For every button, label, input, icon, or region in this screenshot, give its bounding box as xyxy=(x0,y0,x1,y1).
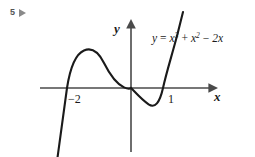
x-tick-label-1: 1 xyxy=(168,92,174,106)
x-axis-label: x xyxy=(213,89,221,104)
equation-term3: 2x xyxy=(212,32,224,44)
x-tick-label-neg2: −2 xyxy=(68,92,81,106)
equation-annotation: y=x3+x2−2x xyxy=(151,31,224,45)
equation-minus: − xyxy=(203,32,210,44)
y-axis-label: y xyxy=(112,21,120,36)
equation-term1-exponent: 3 xyxy=(174,31,179,40)
equation-plus: + xyxy=(181,32,188,44)
equation-term2-exponent: 2 xyxy=(196,31,200,40)
equation-equals: = xyxy=(160,32,167,44)
graph-canvas: y x −2 1 y=x3+x2−2x xyxy=(0,0,255,157)
equation-lhs: y xyxy=(151,32,158,45)
svg-text:y=x3+x2−2x: y=x3+x2−2x xyxy=(151,31,224,45)
